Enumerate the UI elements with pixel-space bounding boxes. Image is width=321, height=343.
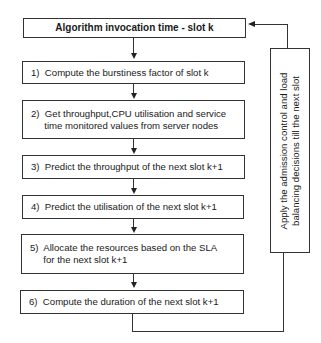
feedback-line [287,24,288,48]
feedback-line [254,24,288,25]
connector-line [133,38,134,54]
step-6-text: 6) Compute the duration of the next slot… [21,296,219,308]
step-4-text: 4) Predict the utilisation of the next s… [23,201,217,213]
arrow-down-icon [131,53,137,59]
arrow-down-icon [131,282,137,288]
step-5-text: 5) Allocate the resources based on the S… [22,242,217,266]
step-6-box: 6) Compute the duration of the next slot… [20,290,244,314]
arrow-down-icon [131,148,137,154]
step-4-box: 4) Predict the utilisation of the next s… [22,195,244,219]
step-3-box: 3) Predict the throughput of the next sl… [22,155,245,179]
step-2-text: 2) Get throughput,CPU utilisation and se… [23,108,226,132]
feedback-line [132,331,284,332]
feedback-line [283,253,284,332]
feedback-text: Apply the admission control and load bal… [278,72,302,229]
arrow-down-icon [131,227,137,233]
feedback-box: Apply the admission control and load bal… [270,48,310,253]
step-2-box: 2) Get throughput,CPU utilisation and se… [22,100,245,139]
step-3-text: 3) Predict the throughput of the next sl… [23,161,223,173]
step-1-box: 1) Compute the burstiness factor of slot… [22,61,245,84]
title-box: Algorithm invocation time - slot k [23,18,246,38]
step-1-text: 1) Compute the burstiness factor of slot… [23,67,209,79]
arrow-left-icon [248,21,255,27]
title-text: Algorithm invocation time - slot k [55,22,213,34]
step-5-box: 5) Allocate the resources based on the S… [21,234,244,274]
arrow-down-icon [131,188,137,194]
feedback-line [132,314,133,332]
arrow-down-icon [131,93,137,99]
